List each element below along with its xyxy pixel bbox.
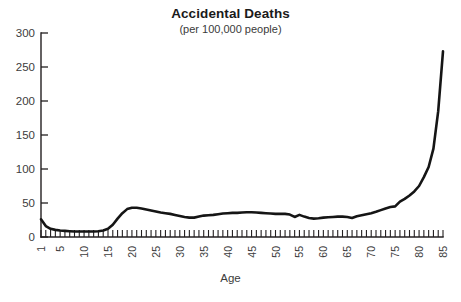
- y-tick-label: 200: [16, 95, 35, 107]
- x-tick-label: 35: [198, 246, 210, 258]
- x-tick-label: 20: [126, 246, 138, 258]
- x-tick-label: 60: [317, 246, 329, 258]
- y-tick-label: 50: [22, 197, 35, 209]
- x-tick-label: 80: [413, 246, 425, 258]
- x-tick-label: 65: [341, 246, 353, 258]
- x-tick-label: 75: [389, 246, 401, 258]
- y-tick-label: 300: [16, 27, 35, 39]
- x-tick-label: 50: [270, 246, 282, 258]
- y-axis: 050100150200250300: [16, 27, 48, 243]
- x-tick-label: 15: [102, 246, 114, 258]
- x-tick-label: 70: [365, 246, 377, 258]
- x-tick-label: 55: [293, 246, 305, 258]
- data-line: [41, 51, 443, 231]
- chart-figure: Accidental Deaths (per 100,000 people) 0…: [0, 0, 461, 302]
- y-tick-label: 250: [16, 61, 35, 73]
- x-tick-label: 10: [78, 246, 90, 258]
- x-tick-label: 5: [54, 246, 66, 252]
- line-chart-plot: 050100150200250300 151015202530354045505…: [0, 0, 461, 302]
- x-tick-label: 40: [222, 246, 234, 258]
- x-tick-label: 1: [35, 246, 47, 252]
- y-tick-label: 0: [29, 231, 35, 243]
- data-series-group: [41, 51, 443, 231]
- y-tick-label: 100: [16, 163, 35, 175]
- y-tick-label: 150: [16, 129, 35, 141]
- x-axis-title: Age: [0, 272, 461, 284]
- x-tick-label: 45: [246, 246, 258, 258]
- x-tick-label: 85: [437, 246, 449, 258]
- x-tick-label: 30: [174, 246, 186, 258]
- x-tick-label: 25: [150, 246, 162, 258]
- x-axis: 1510152025303540455055606570758085: [35, 230, 449, 258]
